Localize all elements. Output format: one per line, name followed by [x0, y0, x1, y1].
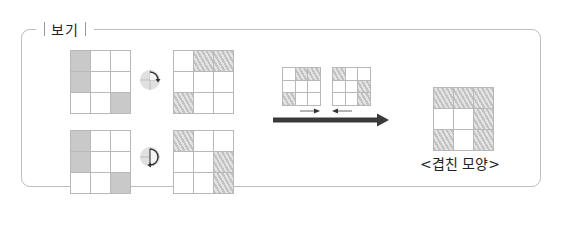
empty-cell: [454, 130, 474, 151]
empty-cell: [174, 72, 194, 93]
empty-cell: [454, 109, 474, 130]
empty-cell: [194, 93, 214, 114]
empty-cell: [71, 93, 91, 114]
empty-cell: [346, 93, 359, 106]
empty-cell: [283, 68, 296, 81]
long-right-arrow-icon: [273, 113, 389, 127]
shaded-cell: [71, 131, 91, 152]
empty-cell: [333, 93, 346, 106]
legend-divider: [44, 22, 45, 36]
overlap-caption: <겹친 모양>: [420, 153, 500, 173]
empty-cell: [214, 93, 234, 114]
empty-cell: [174, 173, 194, 194]
empty-cell: [296, 81, 309, 94]
empty-cell: [91, 131, 111, 152]
empty-cell: [194, 72, 214, 93]
empty-cell: [174, 51, 194, 72]
hatched-cell: [474, 109, 494, 130]
rotate-180-clockwise-icon: [139, 146, 161, 168]
empty-cell: [91, 72, 111, 93]
empty-cell: [194, 173, 214, 194]
hatched-cell: [358, 81, 371, 94]
shaded-cell: [71, 51, 91, 72]
shaded-cell: [111, 173, 131, 194]
empty-cell: [174, 152, 194, 173]
hatched-cell: [333, 68, 346, 81]
empty-cell: [434, 109, 454, 130]
empty-cell: [296, 93, 309, 106]
empty-cell: [346, 68, 359, 81]
empty-cell: [333, 81, 346, 94]
rotated-grid-row1: [173, 50, 234, 114]
shaded-cell: [71, 72, 91, 93]
hatched-cell: [214, 173, 234, 194]
hatched-cell: [194, 51, 214, 72]
empty-cell: [111, 72, 131, 93]
hatched-cell: [434, 130, 454, 151]
empty-cell: [194, 152, 214, 173]
empty-cell: [346, 81, 359, 94]
empty-cell: [111, 152, 131, 173]
original-grid-row1: [70, 50, 131, 114]
empty-cell: [308, 93, 321, 106]
hatched-cell: [454, 88, 474, 109]
example-box-title: 보기: [51, 19, 79, 39]
empty-cell: [214, 72, 234, 93]
hatched-cell: [358, 93, 371, 106]
empty-cell: [308, 81, 321, 94]
empty-cell: [111, 131, 131, 152]
empty-cell: [91, 152, 111, 173]
empty-cell: [111, 51, 131, 72]
empty-cell: [283, 81, 296, 94]
slide-right-grid: [332, 67, 371, 106]
shaded-cell: [71, 152, 91, 173]
empty-cell: [91, 173, 111, 194]
hatched-cell: [174, 131, 194, 152]
shaded-cell: [111, 93, 131, 114]
empty-cell: [358, 68, 371, 81]
hatched-cell: [474, 88, 494, 109]
legend-divider: [85, 22, 86, 36]
hatched-cell: [214, 152, 234, 173]
hatched-cell: [308, 68, 321, 81]
rotate-90-clockwise-icon: [139, 69, 161, 91]
overlap-grid: [433, 87, 494, 151]
hatched-cell: [474, 130, 494, 151]
empty-cell: [194, 131, 214, 152]
rotated-grid-row2: [173, 130, 234, 194]
empty-cell: [91, 51, 111, 72]
empty-cell: [71, 173, 91, 194]
slide-left-grid: [282, 67, 321, 106]
hatched-cell: [174, 93, 194, 114]
empty-cell: [214, 131, 234, 152]
example-box-legend: 보기: [36, 18, 94, 40]
hatched-cell: [214, 51, 234, 72]
empty-cell: [91, 93, 111, 114]
hatched-cell: [296, 68, 309, 81]
hatched-cell: [283, 93, 296, 106]
hatched-cell: [434, 88, 454, 109]
original-grid-row2: [70, 130, 131, 194]
